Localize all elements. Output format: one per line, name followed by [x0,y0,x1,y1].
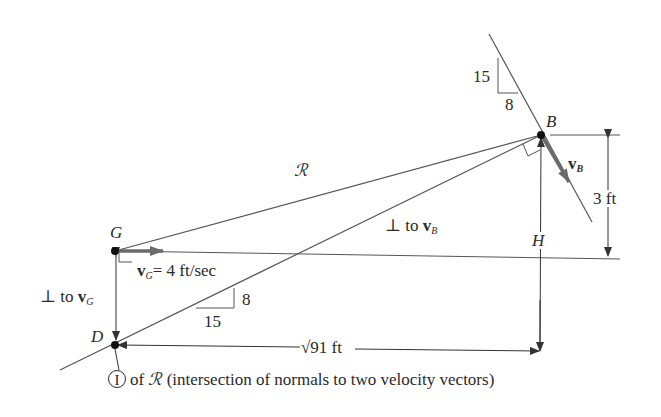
horizontal-line-G [115,251,620,259]
velocity-vector-B [542,136,569,182]
perp-to-vB-text: ⊥ to [385,216,418,235]
point-B-label: B [546,113,556,130]
perp-to-vG-text: ⊥ to [40,287,73,306]
caption-R-symbol: ℛ [148,370,162,389]
caption-of: of [130,370,144,389]
kinematics-diagram: 15 8 B vB 3 ft ℛ ⊥ to vB H G vG= 4 ft/se… [0,0,661,417]
dimension-sqrt91-right [355,349,539,351]
point-G-label: G [110,224,122,241]
slope-top-rise-label: 15 [473,68,490,85]
vB-symbol: v [568,154,577,173]
slope-triangle-top [498,58,518,93]
ic-leader-line [115,349,119,370]
ic-caption: Iof ℛ (intersection of normals to two ve… [108,370,494,388]
point-D [111,341,119,349]
vB-label: vB [568,155,583,174]
R-label: ℛ [294,162,308,179]
vG-symbol: v [137,261,146,280]
point-D-label: D [91,328,103,345]
slope-bottom-run-label: 15 [204,313,221,330]
slope-bottom-rise-label: 8 [242,291,251,308]
right-angle-B [523,144,540,156]
height-3ft-label: 3 ft [593,190,616,207]
perp-vB-symbol: v [423,216,432,235]
vG-subscript: G [146,270,153,281]
ic-circled-marker: I [108,370,126,388]
dist-sqrt91-label: √91 ft [301,339,342,356]
perp-to-vG-label: ⊥ to vG [40,288,93,307]
perp-vG-symbol: v [78,287,87,306]
line-R [115,135,541,251]
vG-equation-label: vG= 4 ft/sec [137,262,216,281]
perp-vG-subscript: G [86,296,93,307]
perp-to-vB-label: ⊥ to vB [385,217,437,236]
dimension-sqrt91-left [118,345,300,347]
slope-top-run-label: 8 [505,96,514,113]
point-G [111,247,119,255]
perp-vB-subscript: B [431,225,437,236]
slope-triangle-bottom [196,288,234,308]
vG-value: = 4 ft/sec [153,261,216,280]
caption-text: (intersection of normals to two velocity… [167,370,495,389]
H-label: H [532,232,544,249]
point-B [537,131,545,139]
vB-subscript: B [577,163,584,174]
